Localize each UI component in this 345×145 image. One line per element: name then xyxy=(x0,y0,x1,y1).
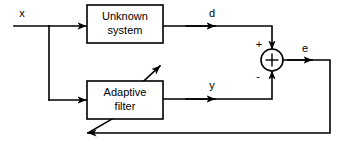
signal-label-x: x xyxy=(19,7,25,19)
block-diagram-canvas: Unknown system Adaptive filter + - x d y… xyxy=(0,0,345,145)
adaptive-filter-label-line2: filter xyxy=(115,100,136,112)
block-diagram-svg: Unknown system Adaptive filter + - x d y… xyxy=(0,0,345,145)
summing-junction-minus-sign: - xyxy=(256,70,260,82)
block-adaptive-filter[interactable]: Adaptive filter xyxy=(87,81,163,119)
summing-junction[interactable] xyxy=(261,49,283,71)
adaptive-filter-label-line1: Adaptive xyxy=(104,86,147,98)
signal-label-y: y xyxy=(209,79,215,91)
signal-label-e: e xyxy=(302,42,308,54)
signal-label-d: d xyxy=(209,7,215,19)
wire-error-feedback-diagonal xyxy=(88,119,112,133)
summing-junction-plus-sign: + xyxy=(256,38,262,50)
block-unknown-system[interactable]: Unknown system xyxy=(87,5,163,43)
unknown-system-label-line1: Unknown xyxy=(102,10,148,22)
unknown-system-label-line2: system xyxy=(108,24,143,36)
